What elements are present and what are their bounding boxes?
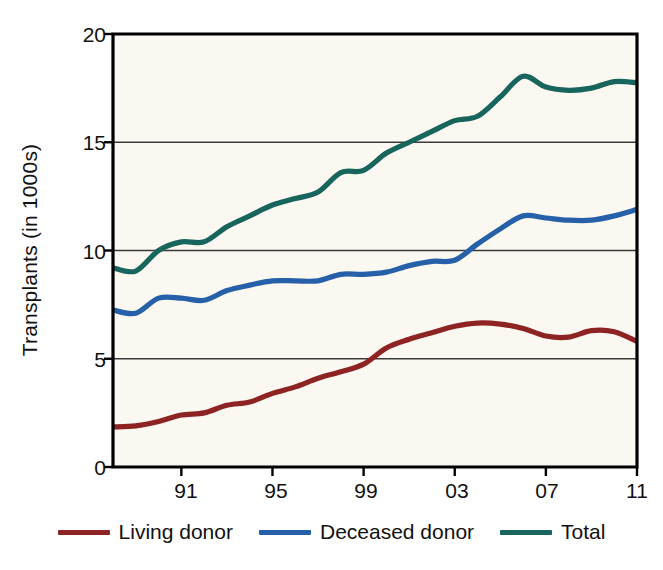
legend-label-living-donor: Living donor	[119, 520, 233, 544]
legend-item-total: Total	[500, 520, 605, 544]
x-tick-label: 91	[156, 479, 216, 503]
chart-legend: Living donor Deceased donor Total	[0, 520, 663, 544]
legend-item-living-donor: Living donor	[58, 520, 233, 544]
x-tick-label: 11	[607, 479, 663, 503]
x-axis-tick-labels: 91 95 99 03 07 11	[0, 0, 663, 570]
x-tick-label: 03	[427, 479, 487, 503]
x-tick-label: 99	[336, 479, 396, 503]
legend-label-deceased-donor: Deceased donor	[320, 520, 474, 544]
legend-swatch-total	[500, 530, 552, 535]
legend-label-total: Total	[561, 520, 605, 544]
legend-swatch-deceased-donor	[259, 530, 311, 535]
transplants-line-chart: Transplants (in 1000s) 20 15 10 5 0 91 9…	[0, 0, 663, 570]
x-tick-label: 95	[246, 479, 306, 503]
legend-swatch-living-donor	[58, 530, 110, 535]
legend-item-deceased-donor: Deceased donor	[259, 520, 474, 544]
x-tick-label: 07	[517, 479, 577, 503]
